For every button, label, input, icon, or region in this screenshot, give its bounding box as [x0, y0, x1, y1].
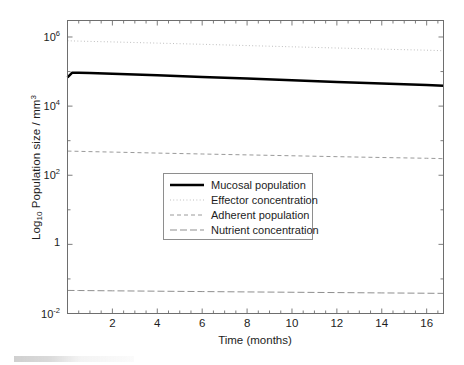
scan-edge-artifact [14, 356, 134, 362]
y-axis-title-prefix: Log [30, 221, 42, 241]
y-tick-mantissa: 1 [54, 236, 60, 248]
x-tick-label: 12 [322, 317, 352, 329]
legend-item[interactable]: Nutrient concentration [164, 222, 312, 237]
legend-label: Adherent population [211, 209, 309, 221]
figure-canvas: 106104102110-2 246810121416 Log10 Popula… [0, 0, 464, 365]
legend-line-swatch [169, 224, 205, 236]
y-tick-exponent: -2 [53, 306, 60, 315]
x-axis-title: Time (months) [67, 334, 443, 346]
y-axis-title-subscript: 10 [35, 212, 44, 221]
legend-item[interactable]: Mucosal population [164, 177, 312, 192]
y-tick-mantissa: 10 [44, 169, 56, 181]
y-axis-title-superscript: 3 [29, 95, 38, 100]
legend-item[interactable]: Effector concentration [164, 192, 312, 207]
legend-line-swatch [169, 194, 205, 206]
y-tick-mantissa: 10 [44, 30, 56, 42]
chart-legend: Mucosal populationEffector concentration… [163, 173, 313, 240]
series-line-mucosal-population [68, 73, 444, 86]
y-tick-exponent: 6 [56, 29, 60, 38]
y-tick-exponent: 2 [56, 167, 60, 176]
legend-item[interactable]: Adherent population [164, 207, 312, 222]
series-layer [68, 41, 444, 294]
x-tick-label: 16 [412, 317, 442, 329]
x-tick-label: 6 [187, 317, 217, 329]
x-tick-label: 2 [97, 317, 127, 329]
legend-line-swatch [169, 209, 205, 221]
series-line-nutrient-concentration [68, 290, 444, 293]
y-axis-title: Log10 Population size / mm3 [29, 38, 44, 298]
y-tick-label: 10-2 [16, 306, 60, 320]
series-line-adherent-population [68, 151, 444, 159]
x-tick-label: 10 [277, 317, 307, 329]
legend-label: Mucosal population [211, 179, 306, 191]
axis-frame [68, 21, 444, 314]
x-tick-label: 4 [142, 317, 172, 329]
x-tick-label: 14 [367, 317, 397, 329]
legend-label: Nutrient concentration [211, 224, 319, 236]
legend-label: Effector concentration [211, 194, 318, 206]
series-line-effector-concentration [68, 41, 444, 51]
x-tick-label: 8 [232, 317, 262, 329]
y-tick-exponent: 4 [56, 98, 60, 107]
legend-line-swatch [169, 179, 205, 191]
y-axis-title-rest: Population size / mm [30, 99, 42, 211]
y-tick-mantissa: 10 [44, 100, 56, 112]
y-tick-mantissa: 10 [41, 307, 53, 319]
axis-frame-layer [68, 21, 444, 314]
